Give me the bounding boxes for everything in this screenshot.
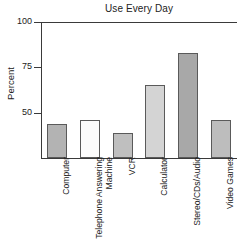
bar — [113, 133, 133, 158]
bars-layer — [41, 22, 237, 158]
bar — [80, 120, 100, 158]
x-category-label: Telephone Answering Machine — [94, 157, 114, 249]
y-tick-label: 50 — [0, 108, 32, 117]
x-axis-category-labels: ComputerTelephone Answering MachineVCRCa… — [41, 159, 237, 251]
bar — [47, 124, 67, 158]
bar — [211, 120, 231, 158]
bar — [178, 53, 198, 158]
x-category-label: VCR — [127, 157, 137, 249]
chart-title: Use Every Day — [40, 3, 238, 14]
y-tick-mark — [34, 22, 41, 23]
y-tick-label: 100 — [0, 17, 32, 26]
x-category-label: Stereo/CDs/Audio — [192, 157, 202, 249]
y-tick-mark — [34, 67, 41, 68]
x-category-label: Calculator — [159, 157, 169, 249]
bar — [145, 85, 165, 158]
bar-chart: Use Every Day Percent 5075100 ComputerTe… — [0, 0, 240, 251]
y-tick-label: 75 — [0, 62, 32, 71]
y-tick-mark — [34, 113, 41, 114]
x-category-label: Video Games — [225, 157, 235, 249]
x-category-label: Computer — [61, 157, 71, 249]
